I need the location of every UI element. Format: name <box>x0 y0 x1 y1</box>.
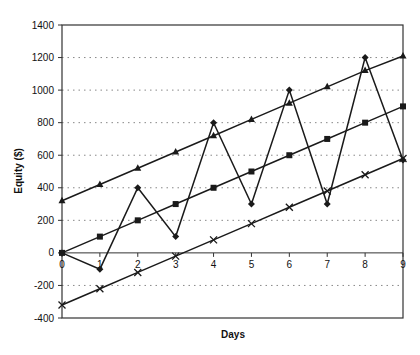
x-tick-label: 2 <box>135 259 141 270</box>
gridlines <box>62 58 403 286</box>
square-marker-icon <box>173 201 179 207</box>
y-tick-label: 800 <box>37 117 54 128</box>
y-tick-label: -400 <box>34 313 54 324</box>
cross-marker-icon <box>324 188 331 195</box>
diamond-marker-icon <box>210 119 217 126</box>
y-tick-label: 200 <box>37 215 54 226</box>
x-tick-label: 8 <box>362 259 368 270</box>
x-tick-label: 0 <box>59 259 65 270</box>
series-diamond <box>59 54 407 273</box>
x-tick-label: 3 <box>173 259 179 270</box>
square-marker-icon <box>324 136 330 142</box>
cross-marker-icon <box>210 236 217 243</box>
x-axis-ticks: 0123456789 <box>59 253 406 270</box>
y-tick-label: 400 <box>37 182 54 193</box>
square-marker-icon <box>286 152 292 158</box>
x-axis-title: Days <box>221 329 245 340</box>
y-axis-ticks: 1400120010008006004002000-200-400 <box>32 20 62 324</box>
y-tick-label: 1000 <box>32 85 55 96</box>
cross-marker-icon <box>248 220 255 227</box>
y-tick-label: 1400 <box>32 20 55 31</box>
diamond-marker-icon <box>248 201 255 208</box>
diamond-marker-icon <box>286 87 293 94</box>
x-tick-label: 4 <box>211 259 217 270</box>
square-marker-icon <box>211 185 217 191</box>
line-chart: 1400120010008006004002000-200-400 012345… <box>0 0 420 355</box>
diamond-marker-icon <box>362 54 369 61</box>
triangle-marker-icon <box>400 52 407 59</box>
x-tick-label: 7 <box>324 259 330 270</box>
diamond-marker-icon <box>324 201 331 208</box>
square-marker-icon <box>135 217 141 223</box>
plot-frame <box>62 25 403 318</box>
square-marker-icon <box>97 234 103 240</box>
y-tick-label: 600 <box>37 150 54 161</box>
x-tick-label: 9 <box>400 259 406 270</box>
cross-marker-icon <box>96 285 103 292</box>
cross-marker-icon <box>134 269 141 276</box>
cross-marker-icon <box>286 204 293 211</box>
y-axis-title: Equity ($) <box>13 148 24 194</box>
x-tick-label: 5 <box>249 259 255 270</box>
y-tick-label: 1200 <box>32 52 55 63</box>
series-line <box>62 58 403 270</box>
x-tick-label: 6 <box>287 259 293 270</box>
square-marker-icon <box>248 169 254 175</box>
square-marker-icon <box>400 103 406 109</box>
square-marker-icon <box>362 120 368 126</box>
y-tick-label: 0 <box>48 247 54 258</box>
y-tick-label: -200 <box>34 280 54 291</box>
cross-marker-icon <box>362 171 369 178</box>
